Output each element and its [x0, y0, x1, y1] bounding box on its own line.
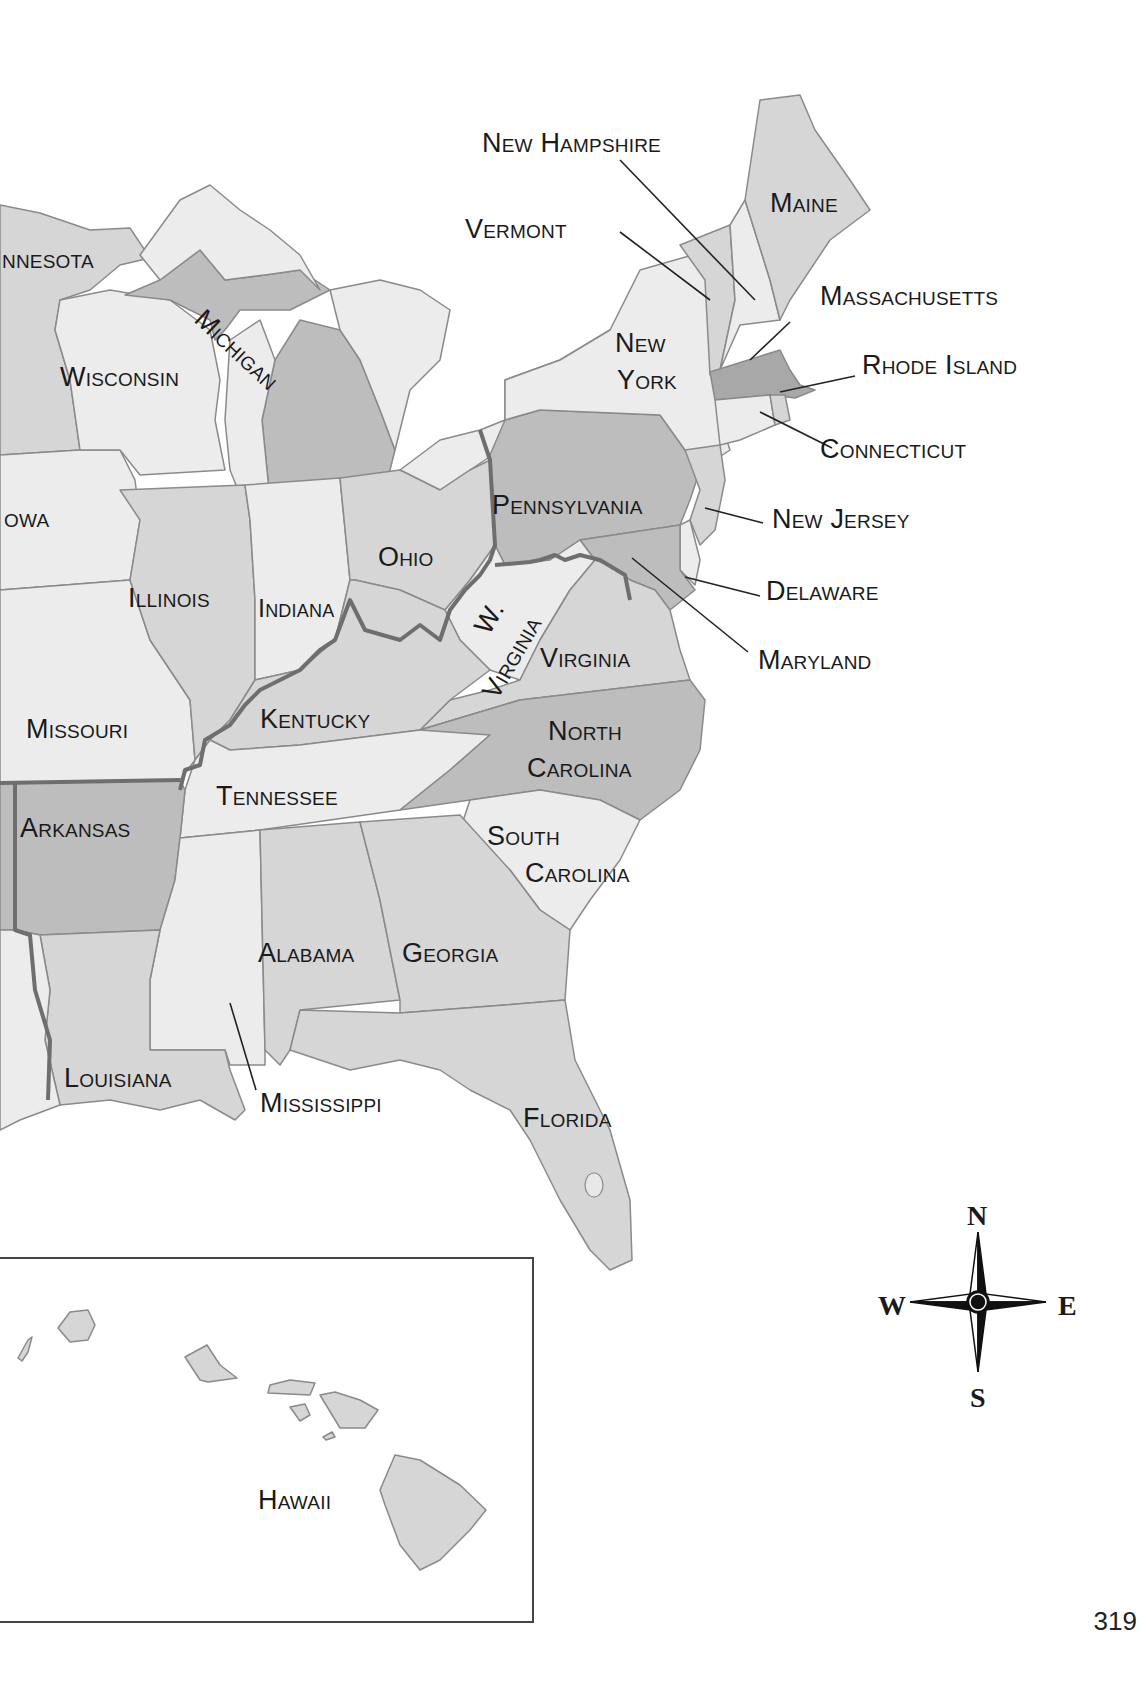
- label-florida: Florida: [523, 1105, 612, 1132]
- label-kentucky: Kentucky: [260, 706, 370, 733]
- label-alabama: Alabama: [258, 940, 355, 967]
- label-hawaii: Hawaii: [258, 1487, 331, 1514]
- label-wisconsin: Wisconsin: [60, 364, 179, 391]
- label-missouri: Missouri: [26, 716, 128, 743]
- compass-east-label: E: [1058, 1290, 1077, 1322]
- label-north-carolina-line2: Carolina: [527, 755, 632, 782]
- compass-west-label: W: [878, 1290, 906, 1322]
- label-massachusetts: Massachusetts: [820, 283, 998, 310]
- label-delaware: Delaware: [766, 578, 879, 605]
- label-georgia: Georgia: [402, 940, 498, 967]
- label-vermont: Vermont: [465, 216, 567, 243]
- label-south-carolina-line1: South: [487, 823, 560, 850]
- label-south-carolina-line2: Carolina: [525, 860, 630, 887]
- leader-delaware: [685, 577, 760, 596]
- label-new-hampshire: New Hampshire: [482, 130, 661, 157]
- label-ohio: Ohio: [378, 544, 434, 571]
- label-tennessee: Tennessee: [216, 783, 338, 810]
- label-louisiana: Louisiana: [64, 1065, 172, 1092]
- label-north-carolina-line1: North: [548, 718, 622, 745]
- label-new-jersey: New Jersey: [772, 506, 910, 533]
- compass-north-label: N: [967, 1200, 987, 1232]
- label-maine: Maine: [770, 190, 838, 217]
- label-arkansas: Arkansas: [20, 815, 130, 842]
- state-connecticut: [715, 395, 775, 445]
- label-rhode-island: Rhode Island: [862, 352, 1017, 379]
- label-illinois: Illinois: [128, 585, 210, 612]
- label-indiana: Indiana: [258, 596, 334, 621]
- compass-south-label: S: [970, 1382, 986, 1414]
- label-iowa: owa: [4, 505, 49, 532]
- page-number: 319: [1094, 1606, 1137, 1637]
- label-new-york-line2: York: [617, 367, 677, 394]
- label-virginia: Virginia: [540, 645, 630, 672]
- hawaii-inset-frame: [0, 1257, 534, 1623]
- label-maryland: Maryland: [758, 647, 872, 674]
- lake-okeechobee: [585, 1173, 603, 1197]
- label-pennsylvania: Pennsylvania: [492, 492, 643, 519]
- state-arkansas: [0, 780, 185, 935]
- compass-rose: [910, 1232, 1046, 1372]
- label-mississippi: Mississippi: [260, 1090, 382, 1117]
- label-new-york-line1: New: [615, 330, 666, 357]
- label-connecticut: Connecticut: [820, 436, 966, 463]
- label-minnesota: nnesota: [2, 246, 94, 273]
- state-florida: [290, 1000, 632, 1270]
